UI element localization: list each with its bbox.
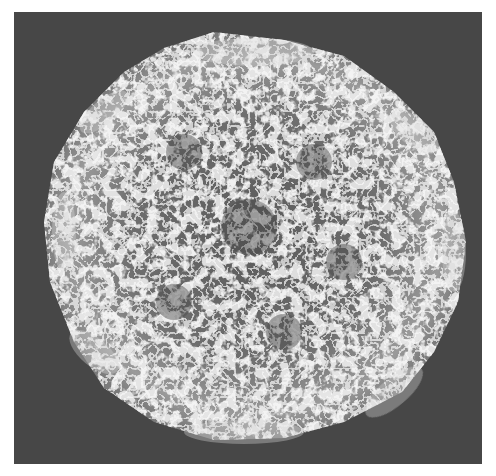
image-frame bbox=[14, 12, 482, 464]
virus-capsid-image bbox=[14, 12, 482, 464]
